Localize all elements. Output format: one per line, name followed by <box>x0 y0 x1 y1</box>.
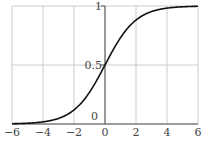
x-tick-label: 4 <box>164 126 171 139</box>
x-tick-label: −2 <box>66 126 82 139</box>
x-tick-label: −6 <box>4 126 20 139</box>
y-tick-label: 0.5 <box>85 59 103 72</box>
sigmoid-chart: −6−4−20246 00.51 <box>0 0 208 148</box>
x-tick-labels: −6−4−20246 <box>4 126 202 139</box>
y-tick-label: 1 <box>95 0 102 13</box>
y-tick-labels: 00.51 <box>85 0 103 123</box>
x-tick-label: −4 <box>35 126 51 139</box>
x-tick-label: 6 <box>195 126 202 139</box>
y-tick-label: 0 <box>91 110 98 123</box>
x-tick-label: 0 <box>102 126 109 139</box>
x-tick-label: 2 <box>133 126 140 139</box>
